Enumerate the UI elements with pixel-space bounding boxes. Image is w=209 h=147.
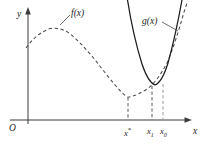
function-label-g: g(x): [142, 17, 157, 27]
tick-label-x0: x0: [160, 127, 167, 138]
x-axis-arrowhead: [185, 117, 193, 123]
origin-label: O: [9, 124, 16, 134]
y-axis-arrowhead: [25, 7, 31, 15]
tick-label-x-star-superscript: *: [128, 126, 132, 134]
function-optimization-diagram: y x O f(x) g(x) x* x1 x0: [0, 0, 209, 147]
plot-canvas: [0, 0, 209, 147]
tick-label-x-star: x*: [124, 127, 131, 137]
function-label-f: f(x): [71, 9, 84, 19]
x-axis-label: x: [193, 127, 197, 137]
tick-label-x0-subscript: 0: [164, 132, 167, 138]
curve-g-solid: [128, 0, 183, 85]
leader-line-g: [162, 22, 178, 31]
leader-line-f: [60, 15, 70, 25]
tick-label-x1-subscript: 1: [151, 132, 154, 138]
tick-label-x1: x1: [147, 127, 154, 138]
y-axis-label: y: [17, 10, 21, 20]
curve-f-dashed: [26, 3, 187, 97]
